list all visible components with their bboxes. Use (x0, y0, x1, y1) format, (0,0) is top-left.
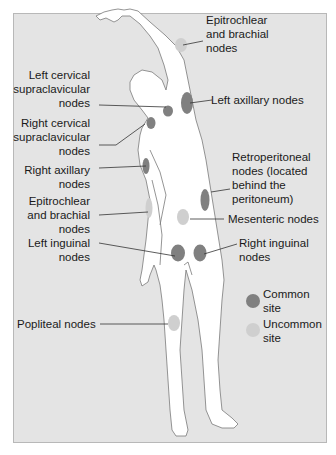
node-mesenteric (177, 209, 189, 225)
label-right-cervical-supraclavicular: Right cervical supraclavicular nodes (10, 116, 90, 158)
label-epitrochlear-brachial-upper: Epitrochlear and brachial nodes (206, 13, 269, 55)
node-right-inguinal (194, 245, 207, 262)
label-left-cervical-supraclavicular: Left cervical supraclavicular nodes (10, 68, 90, 110)
legend-uncommon-swatch (246, 323, 260, 337)
node-popliteal (168, 315, 180, 331)
legend-uncommon-label: Uncommon site (263, 317, 322, 345)
node-epitrochlear-left (175, 38, 187, 52)
node-right-cervical (147, 117, 156, 129)
node-epitrochlear-right (146, 198, 153, 218)
label-left-axillary: Left axillary nodes (211, 93, 304, 107)
label-retroperitoneal: Retroperitoneal nodes (located behind th… (232, 150, 311, 206)
label-popliteal: Popliteal nodes (17, 317, 96, 331)
label-right-inguinal: Right inguinal nodes (239, 236, 309, 264)
legend-common-label: Common site (263, 287, 310, 315)
node-retroperitoneal (201, 189, 210, 211)
node-left-inguinal (171, 245, 185, 262)
label-left-inguinal: Left inguinal nodes (10, 236, 90, 264)
label-mesenteric: Mesenteric nodes (228, 212, 319, 226)
label-epitrochlear-brachial-lower: Epitrochlear and brachial nodes (10, 194, 90, 236)
label-right-axillary: Right axillary nodes (10, 163, 90, 191)
body-silhouette (96, 9, 238, 436)
legend-common-swatch (246, 294, 260, 308)
